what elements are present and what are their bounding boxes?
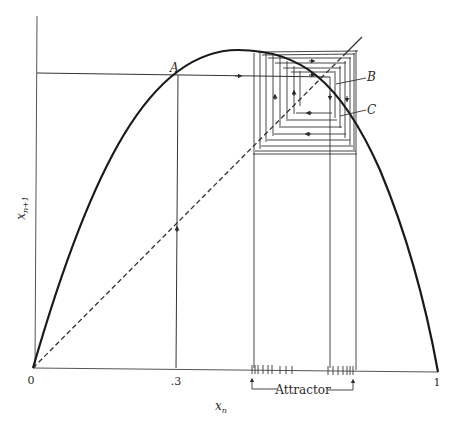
y-axis-label: xn+1 [14,196,30,220]
svg-text:xn: xn [215,399,227,415]
leader-lines [336,78,366,116]
cobweb-verticals-left [254,52,300,368]
diagram-canvas: Attractor 0 .3 1 xn xn+1 A B C [0,0,457,428]
tick-label-1: 1 [434,376,441,389]
point-label-C: C [367,103,376,117]
initial-path [37,73,330,368]
y-axis [35,16,37,368]
horizontal-from-axis [37,73,330,77]
x-axis-label: xn [215,399,227,415]
svg-text:xn+1: xn+1 [14,196,30,220]
tick-label-0.3: .3 [171,375,182,388]
cobweb-horizontals-bottom [253,113,357,154]
logistic-curve [33,50,438,372]
attractor-label: Attractor [274,383,331,397]
leader-B [336,78,366,84]
point-label-B: B [366,70,376,84]
point-label-A: A [169,61,179,75]
cobweb-verticals-right [330,50,356,370]
x-axis [33,368,438,372]
cobweb-diagram: Attractor 0 .3 1 xn xn+1 A B C [0,0,457,428]
leader-C [340,110,366,116]
tick-label-0: 0 [28,374,35,387]
vertical-from-0.3 [176,75,178,368]
identity-diagonal [33,37,362,368]
